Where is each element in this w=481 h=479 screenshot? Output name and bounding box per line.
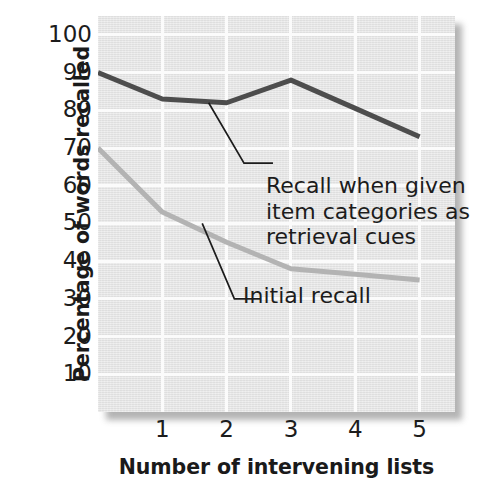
x-tick-label: 3 — [271, 418, 311, 441]
x-tick-label: 1 — [142, 418, 182, 441]
x-axis-title: Number of intervening lists — [98, 455, 455, 479]
x-tick-label: 2 — [207, 418, 247, 441]
x-tick-label: 5 — [400, 418, 440, 441]
x-tick-label: 4 — [335, 418, 375, 441]
